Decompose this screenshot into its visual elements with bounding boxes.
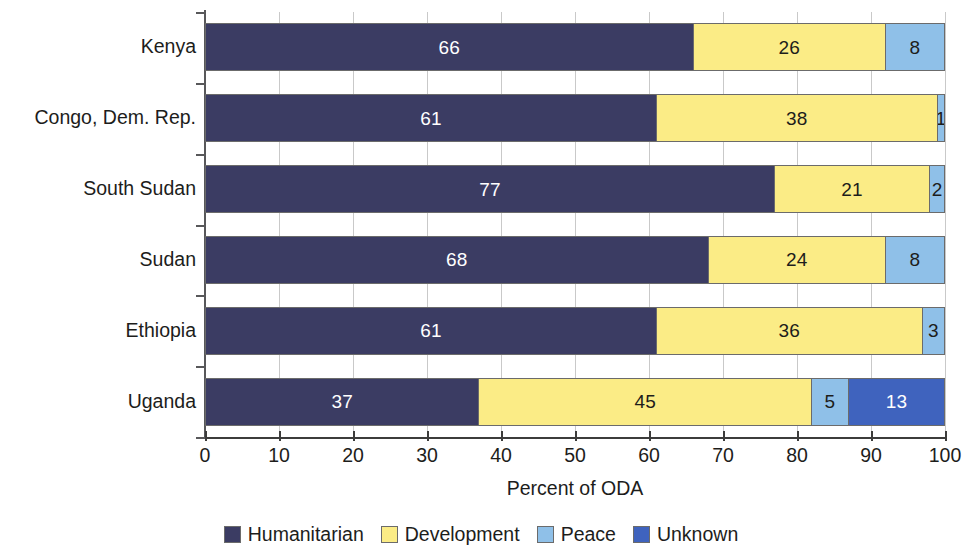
gridline <box>501 12 502 437</box>
x-axis-tick-label: 0 <box>170 444 240 467</box>
bar-segment: 66 <box>205 23 694 71</box>
bar-segment: 24 <box>708 236 886 284</box>
legend-item[interactable]: Unknown <box>633 523 738 546</box>
category-label-column: KenyaCongo, Dem. Rep.South SudanSudanEth… <box>0 0 196 551</box>
x-axis-tick <box>797 431 799 441</box>
gridline <box>427 12 428 437</box>
bar-segment: 68 <box>205 236 709 284</box>
bar-segment-value-label: 3 <box>928 321 939 340</box>
x-axis-tick-label: 60 <box>614 444 684 467</box>
bar-segment: 8 <box>885 236 945 284</box>
legend-item[interactable]: Peace <box>537 523 616 546</box>
plot-area: 66268613817721268248613633745513 <box>205 12 945 437</box>
bar-segment: 61 <box>205 307 657 355</box>
bar-row: 77212 <box>205 165 945 213</box>
x-axis-tick <box>945 431 947 441</box>
bar-segment: 5 <box>811 378 849 426</box>
y-axis-tick <box>196 154 205 156</box>
stacked-bar-chart: KenyaCongo, Dem. Rep.South SudanSudanEth… <box>0 0 962 551</box>
x-axis-tick-label: 10 <box>244 444 314 467</box>
bar-row: 66268 <box>205 23 945 71</box>
y-axis-tick <box>196 366 205 368</box>
square-swatch-icon <box>633 526 650 543</box>
category-label: Congo, Dem. Rep. <box>6 106 196 129</box>
gridline <box>945 12 946 437</box>
bar-segment-value-label: 1 <box>937 109 945 128</box>
x-axis-tick <box>871 431 873 441</box>
y-axis-tick <box>196 12 205 14</box>
category-label: Ethiopia <box>6 319 196 342</box>
bar-segment-value-label: 77 <box>479 180 501 199</box>
bar-segment-value-label: 61 <box>420 321 442 340</box>
x-axis-tick <box>205 431 207 441</box>
category-label: Kenya <box>6 35 196 58</box>
legend-item[interactable]: Humanitarian <box>224 523 364 546</box>
x-axis-title: Percent of ODA <box>205 477 945 500</box>
x-axis-tick <box>501 431 503 441</box>
category-label: Uganda <box>6 390 196 413</box>
x-axis-tick <box>649 431 651 441</box>
x-axis-tick-label: 40 <box>466 444 536 467</box>
gridline <box>649 12 650 437</box>
bar-segment-value-label: 8 <box>910 38 921 57</box>
gridline <box>797 12 798 437</box>
y-axis-tick <box>196 295 205 297</box>
bar-segment: 1 <box>937 94 945 142</box>
x-axis-tick-label: 80 <box>762 444 832 467</box>
bar-segment-value-label: 5 <box>825 392 836 411</box>
bar-segment-value-label: 45 <box>634 392 656 411</box>
square-swatch-icon <box>224 526 241 543</box>
bar-segment-value-label: 13 <box>886 392 908 411</box>
bar-segment: 21 <box>774 165 930 213</box>
bar-segment: 77 <box>205 165 775 213</box>
legend-item[interactable]: Development <box>381 523 520 546</box>
bar-segment: 61 <box>205 94 657 142</box>
x-axis-tick-label: 20 <box>318 444 388 467</box>
bar-segment: 2 <box>929 165 945 213</box>
bar-segment-value-label: 2 <box>932 180 943 199</box>
category-label: South Sudan <box>6 177 196 200</box>
legend-item-label: Unknown <box>657 523 738 546</box>
square-swatch-icon <box>537 526 554 543</box>
bar-segment: 38 <box>656 94 938 142</box>
category-label: Sudan <box>6 248 196 271</box>
x-axis-tick <box>723 431 725 441</box>
x-axis-tick <box>575 431 577 441</box>
bar-row: 3745513 <box>205 378 945 426</box>
bar-segment-value-label: 61 <box>420 109 442 128</box>
x-axis-tick-label: 30 <box>392 444 462 467</box>
bar-segment-value-label: 8 <box>910 250 921 269</box>
x-axis-tick <box>279 431 281 441</box>
gridline <box>723 12 724 437</box>
x-axis-tick-label: 50 <box>540 444 610 467</box>
y-axis-tick <box>196 437 205 439</box>
bar-segment: 36 <box>656 307 923 355</box>
gridline <box>353 12 354 437</box>
bar-segment-value-label: 36 <box>779 321 801 340</box>
bar-segment: 26 <box>693 23 886 71</box>
bar-segment-value-label: 26 <box>779 38 801 57</box>
bar-segment-value-label: 24 <box>786 250 808 269</box>
bar-segment: 13 <box>848 378 945 426</box>
gridline <box>871 12 872 437</box>
bar-segment-value-label: 21 <box>841 180 863 199</box>
bar-row: 61381 <box>205 94 945 142</box>
x-axis-tick <box>427 431 429 441</box>
y-axis-tick <box>196 225 205 227</box>
gridline <box>279 12 280 437</box>
y-axis-tick <box>196 83 205 85</box>
square-swatch-icon <box>381 526 398 543</box>
bar-segment-value-label: 38 <box>786 109 808 128</box>
gridline <box>575 12 576 437</box>
legend-item-label: Development <box>405 523 520 546</box>
bar-segment: 3 <box>922 307 945 355</box>
bar-row: 68248 <box>205 236 945 284</box>
chart-legend: HumanitarianDevelopmentPeaceUnknown <box>0 523 962 546</box>
legend-item-label: Peace <box>561 523 616 546</box>
x-axis-tick-label: 90 <box>836 444 906 467</box>
bar-segment-value-label: 66 <box>439 38 461 57</box>
x-axis-tick-label: 100 <box>910 444 962 467</box>
bar-segment: 45 <box>478 378 812 426</box>
x-axis-tick <box>353 431 355 441</box>
x-axis-tick-label: 70 <box>688 444 758 467</box>
